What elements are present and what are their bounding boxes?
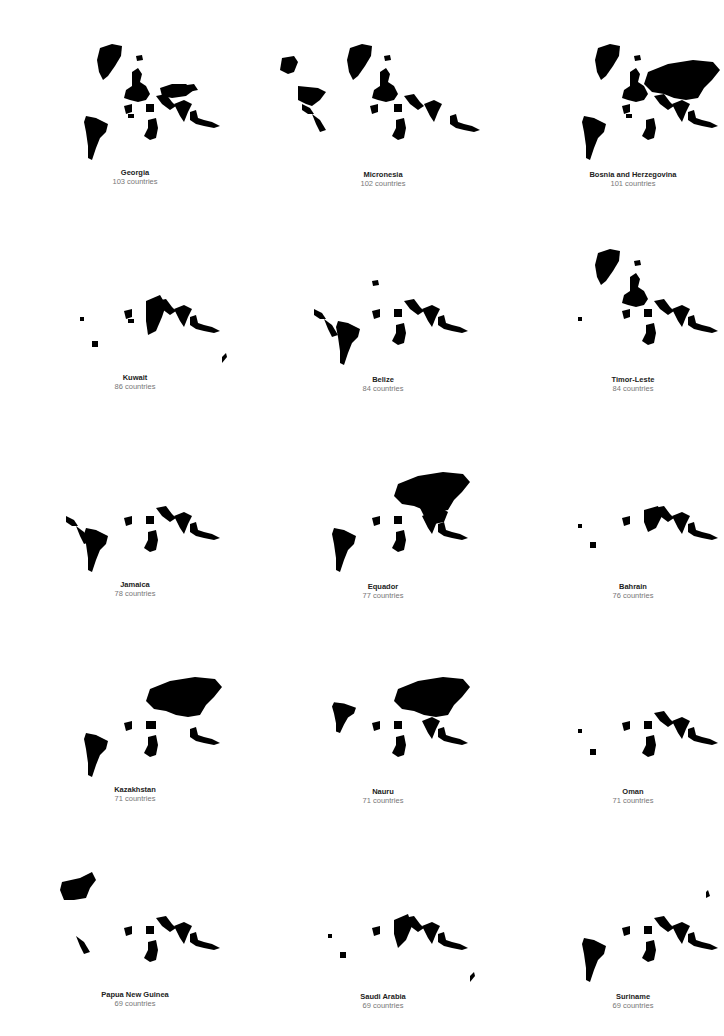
map-panel-kuwait: Kuwait 86 countries (0, 205, 270, 405)
panel-label: Kuwait 86 countries (0, 373, 270, 391)
map-panel-oman: Oman 71 countries (498, 617, 724, 817)
country-count: 71 countries (498, 796, 724, 805)
world-map (248, 0, 518, 170)
country-count: 86 countries (0, 382, 270, 391)
world-map (248, 617, 518, 787)
panel-label: Papua New Guinea 69 countries (0, 990, 270, 1008)
world-map (248, 412, 518, 582)
country-count: 69 countries (248, 1001, 518, 1010)
country-count: 77 countries (248, 591, 518, 600)
country-count: 76 countries (498, 591, 724, 600)
world-map (498, 412, 724, 582)
map-panel-equador: Equador 77 countries (248, 412, 518, 612)
country-name: Timor-Leste (498, 375, 724, 384)
panel-label: Suriname 69 countries (498, 992, 724, 1010)
map-panel-micronesia: Micronesia 102 countries (248, 0, 518, 200)
country-name: Kazakhstan (0, 785, 270, 794)
world-map (248, 822, 518, 992)
map-panel-georgia: Georgia 103 countries (0, 0, 270, 200)
panel-label: Timor-Leste 84 countries (498, 375, 724, 393)
map-panel-jamaica: Jamaica 78 countries (0, 412, 270, 612)
map-panel-nauru: Nauru 71 countries (248, 617, 518, 817)
country-name: Micronesia (248, 170, 518, 179)
panel-label: Kazakhstan 71 countries (0, 785, 270, 803)
country-count: 101 countries (498, 179, 724, 188)
panel-label: Oman 71 countries (498, 787, 724, 805)
map-panel-suriname: Suriname 69 countries (498, 822, 724, 1022)
country-count: 103 countries (0, 177, 270, 186)
world-map (0, 617, 270, 787)
country-name: Suriname (498, 992, 724, 1001)
country-count: 71 countries (248, 796, 518, 805)
map-panel-bahrain: Bahrain 76 countries (498, 412, 724, 612)
map-panel-bosnia-and-herzegovina: Bosnia and Herzegovina 101 countries (498, 0, 724, 200)
world-map (0, 412, 270, 582)
world-map (0, 822, 270, 992)
world-map (0, 205, 270, 375)
world-map (0, 0, 270, 170)
country-name: Oman (498, 787, 724, 796)
country-count: 84 countries (248, 384, 518, 393)
panel-label: Bosnia and Herzegovina 101 countries (498, 170, 724, 188)
world-map (498, 205, 724, 375)
country-name: Saudi Arabia (248, 992, 518, 1001)
country-count: 71 countries (0, 794, 270, 803)
panel-label: Jamaica 78 countries (0, 580, 270, 598)
country-count: 69 countries (498, 1001, 724, 1010)
panel-label: Nauru 71 countries (248, 787, 518, 805)
country-name: Equador (248, 582, 518, 591)
country-name: Jamaica (0, 580, 270, 589)
map-panel-timor-leste: Timor-Leste 84 countries (498, 205, 724, 405)
world-map (498, 617, 724, 787)
country-name: Kuwait (0, 373, 270, 382)
panel-label: Saudi Arabia 69 countries (248, 992, 518, 1010)
country-name: Georgia (0, 168, 270, 177)
country-name: Belize (248, 375, 518, 384)
country-count: 69 countries (0, 999, 270, 1008)
panel-label: Equador 77 countries (248, 582, 518, 600)
panel-label: Bahrain 76 countries (498, 582, 724, 600)
map-panel-kazakhstan: Kazakhstan 71 countries (0, 617, 270, 817)
country-count: 84 countries (498, 384, 724, 393)
country-count: 102 countries (248, 179, 518, 188)
world-map (498, 822, 724, 992)
panel-label: Belize 84 countries (248, 375, 518, 393)
panel-label: Micronesia 102 countries (248, 170, 518, 188)
world-map (498, 0, 724, 170)
map-panel-saudi-arabia: Saudi Arabia 69 countries (248, 822, 518, 1022)
world-map (248, 205, 518, 375)
country-name: Nauru (248, 787, 518, 796)
panel-label: Georgia 103 countries (0, 168, 270, 186)
map-panel-belize: Belize 84 countries (248, 205, 518, 405)
country-name: Bahrain (498, 582, 724, 591)
country-name: Bosnia and Herzegovina (498, 170, 724, 179)
country-count: 78 countries (0, 589, 270, 598)
map-panel-papua-new-guinea: Papua New Guinea 69 countries (0, 822, 270, 1022)
country-name: Papua New Guinea (0, 990, 270, 999)
